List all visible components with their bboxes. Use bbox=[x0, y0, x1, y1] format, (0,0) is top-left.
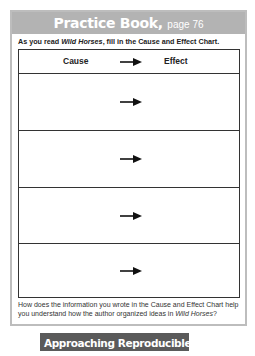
chart-header-row: Cause Effect bbox=[19, 50, 239, 73]
cause-cell[interactable] bbox=[19, 131, 114, 187]
right-arrow-icon bbox=[120, 58, 142, 66]
footer-page-number: page 76 bbox=[199, 338, 233, 349]
right-arrow-icon bbox=[120, 155, 142, 163]
right-arrow-icon bbox=[120, 98, 142, 106]
right-arrow-icon bbox=[120, 267, 142, 275]
practice-book-page: Practice Book, page 76 As you read Wild … bbox=[10, 10, 247, 326]
chart-row bbox=[19, 187, 239, 243]
page-number: page 76 bbox=[167, 19, 203, 30]
chart-row bbox=[19, 130, 239, 187]
page-header: Practice Book, page 76 bbox=[12, 12, 245, 34]
effect-cell[interactable] bbox=[147, 131, 239, 187]
page-title: Practice Book, bbox=[53, 15, 162, 31]
effect-cell[interactable] bbox=[147, 244, 239, 298]
chart-row bbox=[19, 73, 239, 130]
right-arrow-icon bbox=[120, 212, 142, 220]
cause-cell[interactable] bbox=[19, 244, 114, 298]
column-header-cause: Cause bbox=[63, 56, 89, 66]
cause-cell[interactable] bbox=[19, 74, 114, 130]
book-title: Wild Horses bbox=[175, 310, 213, 317]
instruction-text: As you read Wild Horses, fill in the Cau… bbox=[18, 37, 219, 46]
footer-title: Approaching Reproducible, bbox=[44, 337, 195, 349]
cause-cell[interactable] bbox=[19, 188, 114, 243]
effect-cell[interactable] bbox=[147, 188, 239, 243]
column-header-effect: Effect bbox=[164, 56, 188, 66]
approaching-reproducible-label: Approaching Reproducible, page 76 bbox=[40, 333, 189, 351]
chart-row bbox=[19, 243, 239, 298]
book-title: Wild Horses bbox=[61, 37, 102, 46]
cause-effect-chart: Cause Effect bbox=[18, 49, 240, 298]
effect-cell[interactable] bbox=[147, 74, 239, 130]
reflection-question: How does the information you wrote in th… bbox=[18, 300, 240, 318]
